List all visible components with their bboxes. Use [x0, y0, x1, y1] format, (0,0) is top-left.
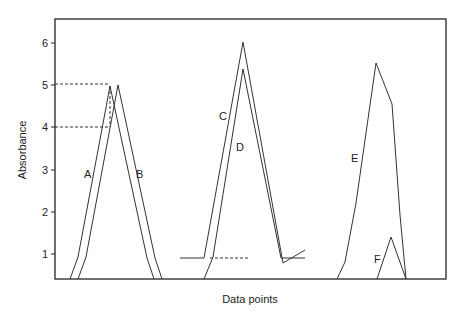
- y-tick-4: 4: [42, 121, 48, 133]
- label-d: D: [236, 141, 244, 153]
- curve-b: [78, 85, 162, 279]
- label-e: E: [351, 152, 358, 164]
- curve-f: [377, 237, 406, 279]
- y-tick-6: 6: [42, 37, 48, 49]
- label-b: B: [136, 168, 143, 180]
- y-tick-1: 1: [42, 248, 48, 260]
- absorbance-chart: 1 2 3 4 5 6 Absorbance Data points A B C…: [0, 0, 468, 315]
- label-c: C: [219, 110, 227, 122]
- y-axis-title: Absorbance: [16, 121, 28, 180]
- y-tick-5: 5: [42, 79, 48, 91]
- curve-e: [337, 63, 406, 279]
- label-a: A: [84, 168, 92, 180]
- y-tick-2: 2: [42, 206, 48, 218]
- plot-frame: [55, 19, 446, 279]
- x-axis-title: Data points: [222, 293, 278, 305]
- y-tick-labels: 1 2 3 4 5 6: [42, 37, 48, 260]
- label-f: F: [374, 253, 381, 265]
- y-tick-3: 3: [42, 164, 48, 176]
